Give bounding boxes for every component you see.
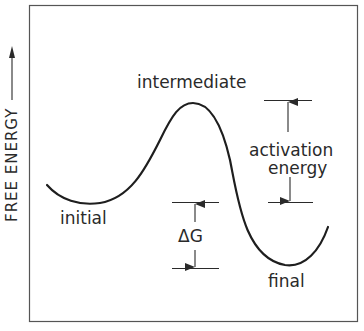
- y-axis-arrowhead-icon: [9, 46, 15, 58]
- label-final: final: [268, 271, 305, 291]
- label-activation-line1: activation: [249, 140, 333, 160]
- label-initial: initial: [60, 208, 107, 228]
- label-activation-line2: energy: [268, 158, 327, 178]
- label-delta-g: ΔG: [178, 226, 203, 246]
- free-energy-diagram: FREE ENERGY initial intermediate final Δ…: [0, 0, 364, 331]
- label-intermediate: intermediate: [137, 72, 246, 92]
- y-axis-label: FREE ENERGY: [3, 108, 21, 222]
